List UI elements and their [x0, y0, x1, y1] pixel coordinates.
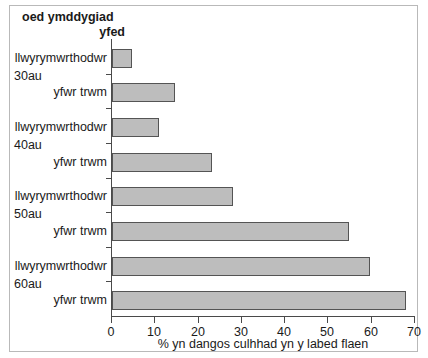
- x-axis-title: % yn dangos culhhad yn y labed flaen: [111, 337, 415, 351]
- category-label-llwyrymwrthodwr: llwyrymwrthodwr: [0, 259, 107, 273]
- bar-50au-yfwr-trwm: [112, 222, 349, 241]
- x-axis-tick: [371, 317, 372, 323]
- bar-40au-llwyrymwrthodwr: [112, 118, 159, 137]
- bar-rect: [112, 291, 406, 310]
- category-tick: [106, 281, 111, 282]
- value-axis-line: [111, 316, 415, 317]
- x-axis-tick: [327, 317, 328, 323]
- age-group-label-40au: 40au: [14, 138, 42, 152]
- chart-header-line-1: oed ymddygiad: [14, 10, 314, 25]
- category-label-yfwr-trwm: yfwr trwm: [0, 224, 107, 238]
- category-tick: [106, 108, 111, 109]
- chart-figure-frame: oed ymddygiad yfed llwyrymwrthodwr30auyf…: [9, 5, 418, 352]
- x-axis-tick: [111, 317, 112, 323]
- category-tick: [106, 143, 111, 144]
- chart-header-line-2: yfed: [14, 25, 125, 40]
- category-tick: [106, 247, 111, 248]
- category-tick: [106, 178, 111, 179]
- age-group-label-30au: 30au: [14, 69, 42, 83]
- x-axis-tick: [241, 317, 242, 323]
- bar-chart-plot-area: 010203040506070: [111, 39, 415, 316]
- bar-rect: [112, 222, 349, 241]
- age-group-label-50au: 50au: [14, 207, 42, 221]
- x-axis-tick: [198, 317, 199, 323]
- bar-40au-yfwr-trwm: [112, 153, 212, 172]
- bar-30au-llwyrymwrthodwr: [112, 49, 132, 68]
- category-tick: [106, 74, 111, 75]
- bar-rect: [112, 153, 212, 172]
- chart-header: oed ymddygiad yfed: [14, 10, 314, 40]
- category-tick: [106, 212, 111, 213]
- bar-rect: [112, 187, 233, 206]
- category-label-yfwr-trwm: yfwr trwm: [0, 155, 107, 169]
- bar-60au-yfwr-trwm: [112, 291, 406, 310]
- bar-rect: [112, 118, 159, 137]
- bar-30au-yfwr-trwm: [112, 83, 175, 102]
- bar-60au-llwyrymwrthodwr: [112, 257, 370, 276]
- bar-50au-llwyrymwrthodwr: [112, 187, 233, 206]
- category-label-llwyrymwrthodwr: llwyrymwrthodwr: [0, 120, 107, 134]
- bar-rect: [112, 49, 132, 68]
- category-label-llwyrymwrthodwr: llwyrymwrthodwr: [0, 189, 107, 203]
- category-label-yfwr-trwm: yfwr trwm: [0, 293, 107, 307]
- x-axis-tick: [414, 317, 415, 323]
- bar-rect: [112, 83, 175, 102]
- x-axis-tick: [154, 317, 155, 323]
- age-group-label-60au: 60au: [14, 277, 42, 291]
- category-axis-labels: llwyrymwrthodwr30auyfwr trwmllwyrymwrtho…: [10, 39, 111, 316]
- x-axis-tick: [284, 317, 285, 323]
- bar-rect: [112, 257, 370, 276]
- category-label-yfwr-trwm: yfwr trwm: [0, 85, 107, 99]
- category-label-llwyrymwrthodwr: llwyrymwrthodwr: [0, 51, 107, 65]
